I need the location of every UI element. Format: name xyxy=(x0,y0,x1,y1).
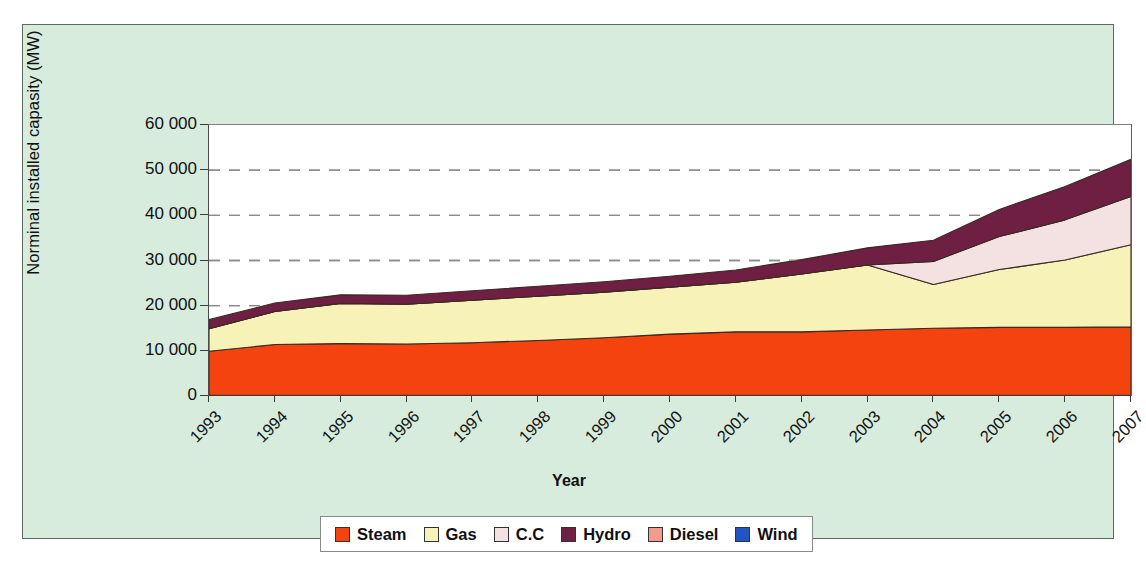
x-tick-label: 2002 xyxy=(771,407,818,454)
x-tick-label: 1997 xyxy=(441,407,488,454)
legend-swatch-icon xyxy=(648,527,663,542)
chart-panel: Norminal installed capasity (MW) 010 000… xyxy=(22,24,1114,539)
legend-label: Gas xyxy=(446,525,477,544)
legend-item-wind[interactable]: Wind xyxy=(735,525,797,544)
x-axis-title: Year xyxy=(23,472,1115,490)
x-tick-label: 2001 xyxy=(705,407,752,454)
x-tick-mark xyxy=(932,395,933,402)
legend-label: Steam xyxy=(357,525,407,544)
legend-label: C.C xyxy=(516,525,544,544)
stacked-area-svg xyxy=(209,125,1131,396)
y-tick-mark xyxy=(200,350,208,351)
y-tick-label: 60 000 xyxy=(111,114,197,134)
x-tick-label: 1993 xyxy=(178,407,225,454)
y-tick-label: 0 xyxy=(111,385,197,405)
legend-item-steam[interactable]: Steam xyxy=(335,525,407,544)
legend-label: Wind xyxy=(757,525,797,544)
x-tick-label: 2006 xyxy=(1034,407,1081,454)
x-tick-label: 1996 xyxy=(376,407,423,454)
legend-swatch-icon xyxy=(561,527,576,542)
x-tick-label: 1998 xyxy=(507,407,554,454)
x-tick-label: 2007 xyxy=(1100,407,1146,454)
plot-area xyxy=(208,124,1132,396)
y-tick-mark xyxy=(200,214,208,215)
x-tick-label: 2003 xyxy=(837,407,884,454)
x-tick-mark xyxy=(340,395,341,402)
y-axis-title: Norminal installed capasity (MW) xyxy=(24,0,43,433)
chart-legend: SteamGasC.CHydroDieselWind xyxy=(320,516,813,552)
x-tick-label: 2005 xyxy=(968,407,1015,454)
x-tick-mark xyxy=(274,395,275,402)
legend-item-c-c[interactable]: C.C xyxy=(494,525,544,544)
x-tick-label: 2004 xyxy=(902,407,949,454)
y-tick-mark xyxy=(200,395,208,396)
x-tick-mark xyxy=(1064,395,1065,402)
legend-label: Hydro xyxy=(583,525,631,544)
y-tick-mark xyxy=(200,169,208,170)
legend-swatch-icon xyxy=(335,527,350,542)
legend-swatch-icon xyxy=(424,527,439,542)
x-tick-mark xyxy=(406,395,407,402)
x-tick-mark xyxy=(867,395,868,402)
legend-item-diesel[interactable]: Diesel xyxy=(648,525,719,544)
x-tick-mark xyxy=(603,395,604,402)
x-tick-mark xyxy=(1130,395,1131,402)
y-tick-mark xyxy=(200,124,208,125)
y-tick-mark xyxy=(200,305,208,306)
x-tick-label: 1994 xyxy=(244,407,291,454)
y-tick-label: 40 000 xyxy=(111,204,197,224)
legend-item-gas[interactable]: Gas xyxy=(424,525,477,544)
x-tick-label: 1999 xyxy=(573,407,620,454)
x-tick-mark xyxy=(735,395,736,402)
y-tick-label: 30 000 xyxy=(111,250,197,270)
x-tick-mark xyxy=(208,395,209,402)
legend-item-hydro[interactable]: Hydro xyxy=(561,525,631,544)
x-tick-mark xyxy=(471,395,472,402)
y-tick-label: 20 000 xyxy=(111,295,197,315)
y-tick-mark xyxy=(200,260,208,261)
x-tick-mark xyxy=(537,395,538,402)
x-tick-mark xyxy=(669,395,670,402)
legend-swatch-icon xyxy=(735,527,750,542)
legend-swatch-icon xyxy=(494,527,509,542)
x-tick-mark xyxy=(998,395,999,402)
y-tick-label: 50 000 xyxy=(111,159,197,179)
x-tick-label: 1995 xyxy=(310,407,357,454)
x-tick-mark xyxy=(801,395,802,402)
x-tick-label: 2000 xyxy=(639,407,686,454)
legend-label: Diesel xyxy=(670,525,719,544)
y-tick-label: 10 000 xyxy=(111,340,197,360)
